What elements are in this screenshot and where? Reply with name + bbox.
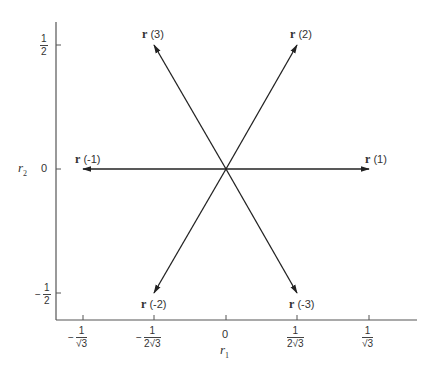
label-r3: r (3) — [142, 27, 164, 42]
x-tick-inv-2sqrt3: 12√3 — [287, 326, 304, 349]
label-r-minus1: r (-1) — [75, 152, 101, 167]
label-r-minus3: r (-3) — [289, 297, 315, 312]
x-tick-neg-inv-2sqrt3: −12√3 — [144, 326, 161, 349]
y-tick-half: 12 — [40, 34, 48, 57]
vector-r-minus2 — [154, 169, 226, 293]
x-tick-zero: 0 — [222, 328, 228, 340]
y-tick-zero: 0 — [41, 162, 47, 174]
vector-r2 — [226, 45, 297, 169]
diagram-canvas — [0, 0, 441, 376]
x-tick-neg-inv-sqrt3: −1√3 — [76, 326, 87, 349]
y-tick-neg-half: −12 — [43, 283, 51, 306]
vector-r3 — [154, 45, 226, 169]
x-tick-inv-sqrt3: 1√3 — [362, 326, 373, 349]
vector-r-minus3 — [226, 169, 297, 293]
label-r2: r (2) — [290, 27, 312, 42]
label-r-minus2: r (-2) — [141, 297, 167, 312]
x-axis-label: r1 — [220, 342, 229, 360]
y-axis-label: r2 — [18, 160, 27, 178]
label-r1: r (1) — [365, 152, 387, 167]
